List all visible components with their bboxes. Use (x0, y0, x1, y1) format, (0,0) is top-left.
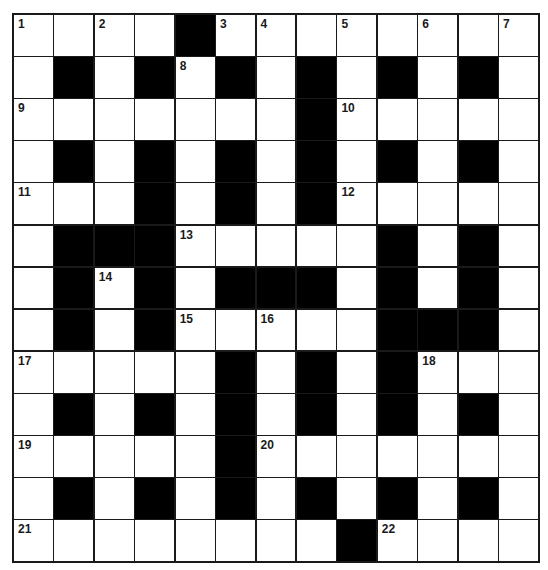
crossword-cell[interactable] (54, 183, 93, 224)
crossword-cell[interactable] (459, 520, 498, 561)
crossword-cell[interactable] (418, 520, 457, 561)
crossword-cell[interactable] (297, 310, 336, 351)
crossword-cell[interactable] (14, 226, 53, 267)
crossword-cell[interactable] (176, 478, 215, 519)
crossword-cell[interactable] (499, 436, 538, 477)
crossword-cell[interactable] (459, 183, 498, 224)
crossword-cell[interactable] (257, 226, 296, 267)
crossword-cell[interactable] (337, 436, 376, 477)
crossword-cell[interactable] (135, 352, 174, 393)
crossword-cell[interactable] (499, 268, 538, 309)
crossword-cell[interactable] (459, 352, 498, 393)
crossword-cell[interactable]: 10 (337, 99, 376, 140)
crossword-cell[interactable] (337, 352, 376, 393)
crossword-cell[interactable] (257, 394, 296, 435)
crossword-cell[interactable] (459, 436, 498, 477)
crossword-cell[interactable] (297, 15, 336, 56)
crossword-cell[interactable] (176, 141, 215, 182)
crossword-cell[interactable] (176, 520, 215, 561)
crossword-cell[interactable] (499, 183, 538, 224)
crossword-cell[interactable] (378, 15, 417, 56)
crossword-cell[interactable] (499, 394, 538, 435)
crossword-cell[interactable] (418, 394, 457, 435)
crossword-cell[interactable] (257, 183, 296, 224)
crossword-cell[interactable] (297, 226, 336, 267)
crossword-cell[interactable] (337, 57, 376, 98)
crossword-cell[interactable] (257, 520, 296, 561)
crossword-cell[interactable] (54, 99, 93, 140)
crossword-cell[interactable] (14, 394, 53, 435)
crossword-cell[interactable] (418, 436, 457, 477)
crossword-cell[interactable] (499, 352, 538, 393)
crossword-cell[interactable]: 1 (14, 15, 53, 56)
crossword-cell[interactable] (95, 310, 134, 351)
crossword-cell[interactable]: 21 (14, 520, 53, 561)
crossword-cell[interactable] (14, 478, 53, 519)
crossword-cell[interactable] (54, 352, 93, 393)
crossword-cell[interactable] (95, 520, 134, 561)
crossword-cell[interactable] (135, 520, 174, 561)
crossword-cell[interactable] (337, 310, 376, 351)
crossword-cell[interactable] (499, 520, 538, 561)
crossword-cell[interactable] (257, 478, 296, 519)
crossword-cell[interactable] (95, 478, 134, 519)
crossword-cell[interactable] (459, 15, 498, 56)
crossword-cell[interactable] (257, 99, 296, 140)
crossword-cell[interactable] (378, 99, 417, 140)
crossword-cell[interactable] (257, 141, 296, 182)
crossword-cell[interactable] (337, 268, 376, 309)
crossword-cell[interactable] (14, 57, 53, 98)
crossword-cell[interactable]: 19 (14, 436, 53, 477)
crossword-cell[interactable] (95, 394, 134, 435)
crossword-cell[interactable] (216, 520, 255, 561)
crossword-cell[interactable] (337, 226, 376, 267)
crossword-cell[interactable]: 15 (176, 310, 215, 351)
crossword-cell[interactable] (418, 57, 457, 98)
crossword-cell[interactable] (378, 183, 417, 224)
crossword-cell[interactable] (418, 183, 457, 224)
crossword-cell[interactable]: 22 (378, 520, 417, 561)
crossword-cell[interactable] (216, 226, 255, 267)
crossword-cell[interactable] (499, 310, 538, 351)
crossword-cell[interactable] (54, 15, 93, 56)
crossword-cell[interactable] (257, 57, 296, 98)
crossword-cell[interactable] (95, 99, 134, 140)
crossword-cell[interactable] (499, 226, 538, 267)
crossword-cell[interactable] (418, 268, 457, 309)
crossword-cell[interactable] (54, 520, 93, 561)
crossword-cell[interactable]: 12 (337, 183, 376, 224)
crossword-cell[interactable] (499, 478, 538, 519)
crossword-cell[interactable] (95, 141, 134, 182)
crossword-cell[interactable] (135, 436, 174, 477)
crossword-cell[interactable]: 5 (337, 15, 376, 56)
crossword-cell[interactable] (297, 436, 336, 477)
crossword-cell[interactable] (459, 99, 498, 140)
crossword-cell[interactable] (14, 310, 53, 351)
crossword-cell[interactable] (418, 226, 457, 267)
crossword-cell[interactable]: 2 (95, 15, 134, 56)
crossword-cell[interactable] (297, 520, 336, 561)
crossword-cell[interactable] (499, 99, 538, 140)
crossword-cell[interactable]: 7 (499, 15, 538, 56)
crossword-cell[interactable] (499, 57, 538, 98)
crossword-cell[interactable]: 16 (257, 310, 296, 351)
crossword-cell[interactable] (176, 183, 215, 224)
crossword-cell[interactable] (95, 436, 134, 477)
crossword-cell[interactable] (418, 478, 457, 519)
crossword-cell[interactable] (14, 268, 53, 309)
crossword-cell[interactable] (95, 352, 134, 393)
crossword-cell[interactable]: 3 (216, 15, 255, 56)
crossword-cell[interactable] (337, 394, 376, 435)
crossword-cell[interactable] (176, 394, 215, 435)
crossword-cell[interactable] (176, 99, 215, 140)
crossword-cell[interactable] (176, 268, 215, 309)
crossword-cell[interactable]: 14 (95, 268, 134, 309)
crossword-cell[interactable]: 6 (418, 15, 457, 56)
crossword-cell[interactable] (176, 352, 215, 393)
crossword-cell[interactable] (337, 141, 376, 182)
crossword-cell[interactable] (14, 141, 53, 182)
crossword-cell[interactable] (216, 99, 255, 140)
crossword-cell[interactable]: 13 (176, 226, 215, 267)
crossword-cell[interactable] (257, 352, 296, 393)
crossword-cell[interactable] (216, 310, 255, 351)
